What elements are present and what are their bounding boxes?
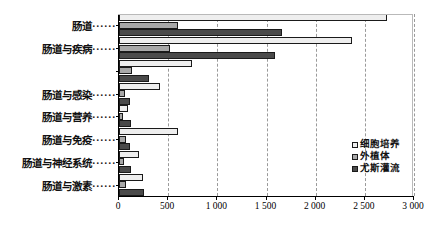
gridline (414, 14, 415, 196)
category-label-column: 肠道······肠道与疾病······肠道与感染······肠道与营养·····… (0, 0, 118, 233)
legend-label: 外植体 (360, 151, 390, 162)
x-axis-label: 500 (160, 201, 174, 211)
bar-2 (119, 189, 144, 196)
legend-item: 细胞培养 (352, 139, 400, 150)
bar-slot (119, 45, 414, 52)
x-axis-tick (315, 196, 316, 200)
leader-dots: ······ (92, 157, 116, 168)
bar-1 (119, 45, 170, 52)
legend-label: 尤斯灌流 (360, 163, 400, 174)
category-label: 肠道与疾病······ (42, 41, 116, 56)
bar-2 (119, 120, 131, 127)
bar-1 (119, 113, 123, 120)
bar-chart: 肠道······肠道与疾病······肠道与感染······肠道与营养·····… (0, 0, 440, 233)
category-label-text: 肠道与免疫 (42, 135, 92, 146)
bar-group (119, 174, 414, 196)
legend-item: 外植体 (352, 151, 400, 162)
bar-group (119, 14, 414, 36)
bar-1 (119, 158, 124, 165)
x-axis-tick (266, 196, 267, 200)
category-label-text: 肠道 (72, 21, 92, 32)
x-axis-label: 3 000 (402, 201, 423, 211)
bar-0 (119, 128, 178, 135)
bar-slot (119, 67, 414, 74)
leader-dots: ······ (92, 180, 116, 191)
bar-2 (119, 52, 275, 59)
bar-group (119, 83, 414, 105)
category-label: 肠道与营养······ (42, 109, 116, 124)
bar-slot (119, 29, 414, 36)
category-label-text: 肠道与激素 (42, 180, 92, 191)
legend-label: 细胞培养 (360, 139, 400, 150)
bar-2 (119, 143, 130, 150)
legend-swatch-icon (352, 154, 358, 160)
category-label: 肠道与神经系统······ (22, 154, 116, 169)
x-axis-tick (167, 196, 168, 200)
bar-0 (119, 37, 352, 44)
bar-slot (119, 90, 414, 97)
bar-0 (119, 151, 139, 158)
bar-1 (119, 90, 125, 97)
legend-swatch-icon (352, 142, 358, 148)
bar-slot (119, 98, 414, 105)
leader-dots: ······ (92, 44, 116, 55)
category-label-text: 肠道与营养 (42, 112, 92, 123)
bar-1 (119, 22, 178, 29)
bar-slot (119, 174, 414, 181)
leader-dots: ······ (92, 112, 116, 123)
bar-slot (119, 14, 414, 21)
category-label: 肠道与感染······ (42, 86, 116, 101)
bar-slot (119, 189, 414, 196)
bar-slot (119, 60, 414, 67)
bar-slot (119, 105, 414, 112)
category-label-text: 肠道与神经系统 (22, 157, 92, 168)
bar-slot (119, 181, 414, 188)
bar-group (119, 60, 414, 82)
x-axis-label: 1 000 (206, 201, 227, 211)
category-label-text: 肠道与疾病 (42, 44, 92, 55)
bar-slot (119, 22, 414, 29)
category-label-text: 肠道与感染 (42, 89, 92, 100)
chart-legend: 细胞培养外植体尤斯灌流 (352, 139, 400, 174)
bar-0 (119, 14, 387, 21)
bar-slot (119, 113, 414, 120)
bar-group (119, 105, 414, 127)
x-axis-label: 2 000 (304, 201, 325, 211)
bar-2 (119, 166, 131, 173)
x-axis-tick (216, 196, 217, 200)
bar-slot (119, 75, 414, 82)
bar-0 (119, 60, 192, 67)
leader-dots: ······ (92, 135, 116, 146)
bar-1 (119, 181, 126, 188)
bar-0 (119, 174, 143, 181)
bar-slot (119, 120, 414, 127)
x-axis-label: 2 500 (353, 201, 374, 211)
legend-swatch-icon (352, 166, 358, 172)
bar-0 (119, 105, 128, 112)
x-axis-tick (118, 196, 119, 200)
category-label: 肠道与激素······ (42, 177, 116, 192)
x-axis-tick (413, 196, 414, 200)
leader-dots: ······ (92, 21, 116, 32)
bar-slot (119, 37, 414, 44)
bar-2 (119, 29, 282, 36)
bar-2 (119, 75, 149, 82)
bar-1 (119, 67, 132, 74)
bar-0 (119, 83, 160, 90)
category-label: 肠道······ (72, 18, 116, 33)
bar-slot (119, 83, 414, 90)
x-axis-label: 0 (116, 201, 121, 211)
category-label: 肠道与免疫······ (42, 132, 116, 147)
x-axis-tick (364, 196, 365, 200)
x-axis-label: 1 500 (255, 201, 276, 211)
bar-1 (119, 136, 126, 143)
legend-item: 尤斯灌流 (352, 163, 400, 174)
bar-2 (119, 98, 130, 105)
bar-slot (119, 128, 414, 135)
leader-dots: ······ (92, 89, 116, 100)
bar-slot (119, 52, 414, 59)
bar-group (119, 37, 414, 59)
